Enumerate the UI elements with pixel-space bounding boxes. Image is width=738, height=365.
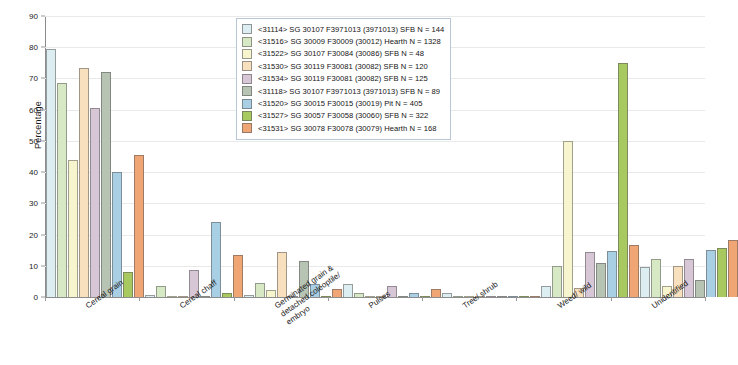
y-tick-label: 60 — [29, 105, 38, 114]
y-tick-label: 30 — [29, 199, 38, 208]
bar[interactable] — [79, 68, 89, 297]
bar-group — [45, 16, 144, 297]
bar[interactable] — [442, 293, 452, 297]
bar[interactable] — [167, 296, 177, 297]
bar[interactable] — [57, 83, 67, 297]
legend-swatch — [242, 37, 252, 47]
bar-group — [441, 16, 540, 297]
legend-swatch — [242, 49, 252, 59]
x-tick-mark — [611, 297, 612, 301]
x-tick-mark — [139, 297, 140, 301]
legend-item[interactable]: <31516> SG 30009 F30009 (30012) Hearth N… — [242, 35, 444, 47]
legend-label: <31531> SG 30078 F30078 (30079) Hearth N… — [258, 124, 437, 133]
bar[interactable] — [145, 295, 155, 297]
bar[interactable] — [134, 155, 144, 297]
bar[interactable] — [431, 289, 441, 297]
bar[interactable] — [255, 283, 265, 297]
bar[interactable] — [222, 293, 232, 297]
legend-item[interactable]: <31114> SG 30107 F3971013 (3971013) SFB … — [242, 23, 444, 35]
bar[interactable] — [629, 245, 639, 297]
legend-item[interactable]: <31522> SG 30107 F30084 (30086) SFB N = … — [242, 48, 444, 60]
bar-group — [540, 16, 639, 297]
y-tick-label: 90 — [29, 12, 38, 21]
legend-swatch — [242, 111, 252, 121]
y-tick-label: 20 — [29, 230, 38, 239]
bar[interactable] — [563, 141, 573, 297]
bar[interactable] — [684, 259, 694, 297]
bar[interactable] — [277, 252, 287, 297]
bar[interactable] — [530, 296, 540, 297]
bar[interactable] — [607, 251, 617, 297]
bar[interactable] — [266, 290, 276, 297]
legend-label: <31534> SG 30119 F30081 (30082) SFB N = … — [258, 74, 428, 83]
legend-swatch — [242, 74, 252, 84]
bar[interactable] — [640, 267, 650, 297]
bar[interactable] — [706, 250, 716, 297]
legend: <31114> SG 30107 F3971013 (3971013) SFB … — [236, 18, 451, 140]
bar[interactable] — [365, 296, 375, 297]
y-axis-ticks: 0102030405060708090 — [0, 0, 45, 365]
y-tick-label: 0 — [34, 293, 38, 302]
bar[interactable] — [46, 49, 56, 297]
x-tick-mark — [516, 297, 517, 301]
bar[interactable] — [519, 296, 529, 297]
bar[interactable] — [728, 240, 738, 297]
legend-label: <31530> SG 30119 F30081 (30082) SFB N = … — [258, 62, 428, 71]
legend-item[interactable]: <31530> SG 30119 F30081 (30082) SFB N = … — [242, 60, 444, 72]
legend-swatch — [242, 61, 252, 71]
y-tick-label: 50 — [29, 136, 38, 145]
legend-label: <31516> SG 30009 F30009 (30012) Hearth N… — [258, 37, 441, 46]
bar[interactable] — [497, 296, 507, 297]
legend-swatch — [242, 86, 252, 96]
legend-label: <31114> SG 30107 F3971013 (3971013) SFB … — [258, 25, 444, 34]
bar[interactable] — [651, 259, 661, 297]
y-tick-label: 10 — [29, 261, 38, 270]
bar[interactable] — [596, 263, 606, 297]
legend-item[interactable]: <31534> SG 30119 F30081 (30082) SFB N = … — [242, 73, 444, 85]
legend-label: <31520> SG 30015 F30015 (30019) Pit N = … — [258, 99, 422, 108]
bar[interactable] — [90, 108, 100, 297]
y-tick-label: 70 — [29, 74, 38, 83]
bar[interactable] — [618, 63, 628, 297]
x-tick-mark — [234, 297, 235, 301]
legend-item[interactable]: <31531> SG 30078 F30078 (30079) Hearth N… — [242, 122, 444, 134]
legend-swatch — [242, 24, 252, 34]
y-tick-label: 40 — [29, 168, 38, 177]
bar[interactable] — [695, 280, 705, 297]
legend-swatch — [242, 123, 252, 133]
x-tick-mark — [422, 297, 423, 301]
bar[interactable] — [101, 72, 111, 297]
legend-item[interactable]: <31520> SG 30015 F30015 (30019) Pit N = … — [242, 97, 444, 109]
legend-swatch — [242, 99, 252, 109]
bar[interactable] — [354, 293, 364, 297]
y-tick-label: 80 — [29, 43, 38, 52]
legend-item[interactable]: <31527> SG 30057 F30058 (30060) SFB N = … — [242, 110, 444, 122]
bar[interactable] — [453, 296, 463, 297]
bar-group — [144, 16, 243, 297]
legend-label: <31527> SG 30057 F30058 (30060) SFB N = … — [258, 111, 428, 120]
x-tick-mark — [45, 297, 46, 301]
bar[interactable] — [541, 286, 551, 297]
bar[interactable] — [398, 296, 408, 297]
bar-group — [639, 16, 738, 297]
bar[interactable] — [552, 266, 562, 297]
bar[interactable] — [156, 286, 166, 297]
bar[interactable] — [244, 295, 254, 297]
legend-label: <31522> SG 30107 F30084 (30086) SFB N = … — [258, 49, 424, 58]
x-tick-mark — [705, 297, 706, 301]
bar[interactable] — [717, 248, 727, 297]
legend-item[interactable]: <31118> SG 30107 F3971013 (3971013) SFB … — [242, 85, 444, 97]
bar[interactable] — [420, 296, 430, 297]
legend-label: <31118> SG 30107 F3971013 (3971013) SFB … — [258, 87, 440, 96]
bar[interactable] — [233, 255, 243, 297]
bar[interactable] — [68, 160, 78, 297]
bar[interactable] — [409, 293, 419, 297]
